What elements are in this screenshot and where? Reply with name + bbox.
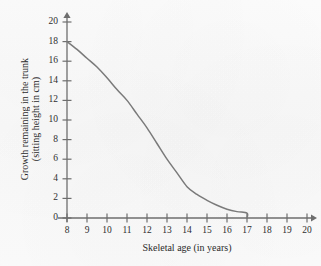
x-tick-label-11: 11 (122, 226, 131, 236)
x-tick-label-9: 9 (85, 226, 90, 236)
y-axis-title-line-1: Growth remaining in the trunk (19, 58, 30, 180)
x-tick-label-10: 10 (102, 226, 112, 236)
x-tick-label-12: 12 (142, 226, 152, 236)
x-axis-title: Skeletal age (in years) (67, 242, 307, 253)
y-axis-title-line-2: (sitting height in cm) (30, 77, 41, 161)
data-series-line (67, 42, 248, 218)
x-tick-label-14: 14 (182, 226, 192, 236)
x-tick-label-16: 16 (222, 226, 232, 236)
x-tick-label-13: 13 (162, 226, 172, 236)
x-tick-label-17: 17 (242, 226, 252, 236)
y-axis-arrow-icon (63, 12, 70, 18)
y-axis-title: Growth remaining in the trunk (sitting h… (14, 20, 46, 218)
x-tick-label-15: 15 (202, 226, 212, 236)
chart-figure: 0 2 4 6 8 10 12 14 16 18 20 8 9 10 11 12… (0, 0, 321, 266)
x-tick-label-19: 19 (282, 226, 292, 236)
x-tick-label-20: 20 (302, 226, 312, 236)
x-tick-label-8: 8 (65, 226, 70, 236)
x-tick-label-18: 18 (262, 226, 272, 236)
x-axis-arrow-icon (311, 214, 317, 221)
